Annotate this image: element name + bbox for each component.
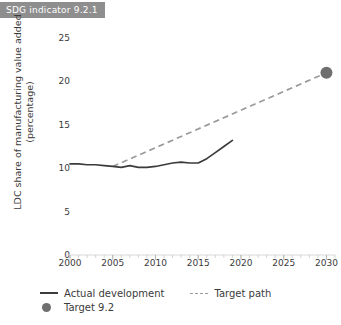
x-axis-major-ticks <box>70 255 326 260</box>
legend-label-target-9-2: Target 9.2 <box>64 302 114 313</box>
filled-circle-icon <box>40 302 58 312</box>
plot-area <box>0 22 341 280</box>
legend-row-bottom: Target 9.2 <box>40 300 340 314</box>
dashed-line-icon <box>190 288 208 298</box>
series-actual-development <box>70 140 232 167</box>
solid-line-icon <box>40 288 58 298</box>
legend-item-actual-development: Actual development <box>40 288 164 299</box>
chart-legend: Actual development Target path Target 9.… <box>40 286 340 314</box>
legend-item-target-9-2: Target 9.2 <box>40 302 114 313</box>
legend-row-top: Actual development Target path <box>40 286 340 300</box>
legend-label-target-path: Target path <box>214 288 271 299</box>
chart-container: LDC share of manufacturing value added (… <box>0 22 341 280</box>
target-point-marker <box>320 67 332 79</box>
legend-label-actual-development: Actual development <box>64 288 164 299</box>
target-point-markers <box>320 67 332 79</box>
legend-item-target-path: Target path <box>190 288 271 299</box>
series-target-path <box>113 73 327 167</box>
